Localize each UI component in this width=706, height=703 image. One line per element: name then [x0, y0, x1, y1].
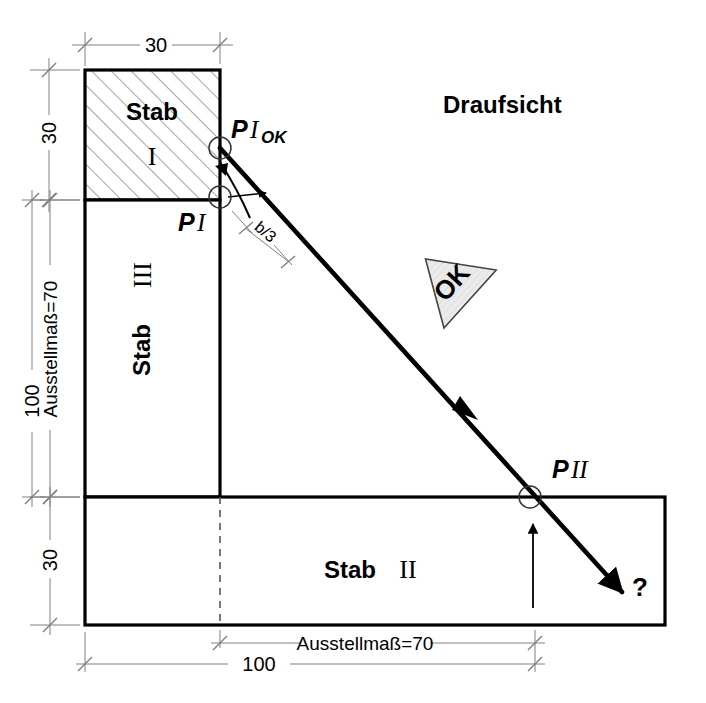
point-label-p1ok-i: I — [249, 116, 260, 143]
page-title: Draufsicht — [443, 91, 562, 118]
drawing-svg: 30 30 Ausstellmaß=70 — [0, 0, 706, 703]
point-label-p1-group: P I — [178, 208, 207, 236]
dimension-left-ausstellmass-label: Ausstellmaß=70 — [40, 281, 61, 418]
point-label-p1ok-p: P — [231, 115, 248, 143]
ok-flag-group: OK — [399, 230, 496, 328]
point-label-p2-group: P II — [552, 455, 589, 483]
dimension-bottom-ausstellmass-label: Ausstellmaß=70 — [297, 633, 434, 654]
dimension-top-30-label: 30 — [145, 34, 167, 56]
stab-i-hatch-fill — [85, 70, 220, 200]
point-label-p2-p: P — [552, 455, 569, 483]
dimension-left-30-upper-label: 30 — [38, 122, 60, 144]
stab-ii-numeral: II — [399, 555, 416, 584]
point-label-p1ok-subscript: OK — [261, 128, 288, 147]
dimension-left-30-lower-label: 30 — [39, 549, 61, 571]
ext-line-b3-b — [274, 245, 292, 265]
stab-ii-label: Stab — [324, 556, 376, 583]
stab-i-label: Stab — [126, 98, 178, 125]
dimension-left-100-label: 100 — [21, 384, 43, 417]
dimension-bottom-100-label: 100 — [242, 653, 275, 675]
stab-iii-label: Stab — [128, 324, 155, 376]
point-label-p1ok-group: P I OK — [231, 115, 288, 147]
point-label-p2-i: II — [570, 456, 589, 483]
technical-drawing-canvas: 30 30 Ausstellmaß=70 — [0, 0, 706, 703]
stab-i-numeral: I — [148, 142, 157, 171]
dimension-b-over-3-label: b/3 — [252, 218, 280, 245]
question-mark-label: ? — [632, 572, 648, 602]
stab-i-shape — [85, 70, 220, 200]
point-label-p1-p: P — [178, 208, 195, 236]
stab-iii-numeral: III — [128, 262, 157, 288]
